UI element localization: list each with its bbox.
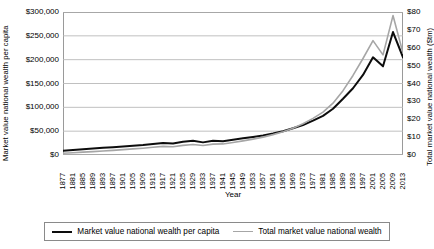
chart-container: Market value national wealth per capita … <box>0 0 434 249</box>
legend-swatch-icon <box>233 231 253 232</box>
x-axis-tick-label: 1945 <box>229 173 236 189</box>
x-axis-tick-label: 1929 <box>189 173 196 189</box>
y-axis-right-tick-label: $10 <box>407 133 420 141</box>
x-axis-tick-label: 1957 <box>259 173 266 189</box>
y-axis-right-tick-label: $20 <box>407 115 420 123</box>
gridlines <box>63 12 403 155</box>
x-axis-tick-label: 1997 <box>359 173 366 189</box>
x-axis-tick-label: 2013 <box>399 173 406 189</box>
x-axis-tick-label: 1897 <box>109 173 116 189</box>
x-axis-tick-label: 1913 <box>149 173 156 189</box>
chart-legend: Market value national wealth per capita … <box>44 222 390 241</box>
x-axis-tick-label: 1933 <box>199 173 206 189</box>
x-axis-tick-label: 1985 <box>329 173 336 189</box>
x-axis-tick-label: 2005 <box>379 173 386 189</box>
y-axis-left-tick-label: $300,000 <box>26 8 59 16</box>
x-axis-tick-label: 1917 <box>159 173 166 189</box>
x-axis-tick-label: 1905 <box>129 173 136 189</box>
x-axis-title: Year <box>63 190 403 199</box>
y-axis-right-tick-label: $70 <box>407 26 420 34</box>
y-axis-left-tick-label: $0 <box>50 151 59 159</box>
y-axis-right-tick-label: $30 <box>407 97 420 105</box>
legend-swatch-icon <box>52 231 72 233</box>
x-axis-tick-label: 1981 <box>319 173 326 189</box>
y-axis-right-title: Total market value national wealth ($tm) <box>425 8 434 186</box>
x-axis-tick-label: 1925 <box>179 173 186 189</box>
x-axis-tick-label: 1937 <box>209 173 216 189</box>
x-axis-tick-label: 1921 <box>169 173 176 189</box>
x-axis-tick-label: 1881 <box>69 173 76 189</box>
y-axis-right-tick-label: $80 <box>407 8 420 16</box>
x-axis-tick-label: 1965 <box>279 173 286 189</box>
x-axis-tick-label: 1993 <box>349 173 356 189</box>
x-axis-tick-label: 1877 <box>59 173 66 189</box>
y-axis-right-tick-label: $50 <box>407 62 420 70</box>
legend-item-per-capita: Market value national wealth per capita <box>52 227 219 236</box>
legend-label: Market value national wealth per capita <box>77 227 219 236</box>
series-line <box>63 32 403 151</box>
legend-item-total: Total market value national wealth <box>233 227 381 236</box>
x-axis-tick-label: 2009 <box>389 173 396 189</box>
plot-area: $0$50,000$100,000$150,000$200,000$250,00… <box>63 12 403 155</box>
x-axis-tick-label: 1977 <box>309 173 316 189</box>
x-axis-tick-label: 1953 <box>249 173 256 189</box>
chart-svg <box>63 12 403 155</box>
x-axis-tick-label: 2001 <box>369 173 376 189</box>
legend-label: Total market value national wealth <box>258 227 381 236</box>
y-axis-right-tick-label: $60 <box>407 44 420 52</box>
x-axis-tick-label: 1973 <box>299 173 306 189</box>
x-axis-tick-label: 1893 <box>99 173 106 189</box>
x-axis-tick-label: 1889 <box>89 173 96 189</box>
x-axis-tick-label: 1909 <box>139 173 146 189</box>
x-axis-tick-label: 1989 <box>339 173 346 189</box>
y-axis-right-tick-label: $40 <box>407 80 420 88</box>
y-axis-right-tick-label: $0 <box>407 151 416 159</box>
x-axis-tick-label: 1949 <box>239 173 246 189</box>
x-axis-tick-label: 1961 <box>269 173 276 189</box>
y-axis-left-tick-label: $50,000 <box>30 127 59 135</box>
x-axis-tick-label: 1941 <box>219 173 226 189</box>
y-axis-left-tick-label: $100,000 <box>26 103 59 111</box>
y-axis-left-tick-label: $200,000 <box>26 56 59 64</box>
y-axis-left-tick-label: $250,000 <box>26 32 59 40</box>
y-axis-left-title: Market value national wealth per capita <box>1 8 10 178</box>
x-axis-tick-label: 1969 <box>289 173 296 189</box>
x-axis-tick-label: 1901 <box>119 173 126 189</box>
x-axis-ticks: 1877188118851889189318971901190519091913… <box>63 157 403 189</box>
y-axis-left-tick-label: $150,000 <box>26 80 59 88</box>
x-axis-tick-label: 1885 <box>79 173 86 189</box>
